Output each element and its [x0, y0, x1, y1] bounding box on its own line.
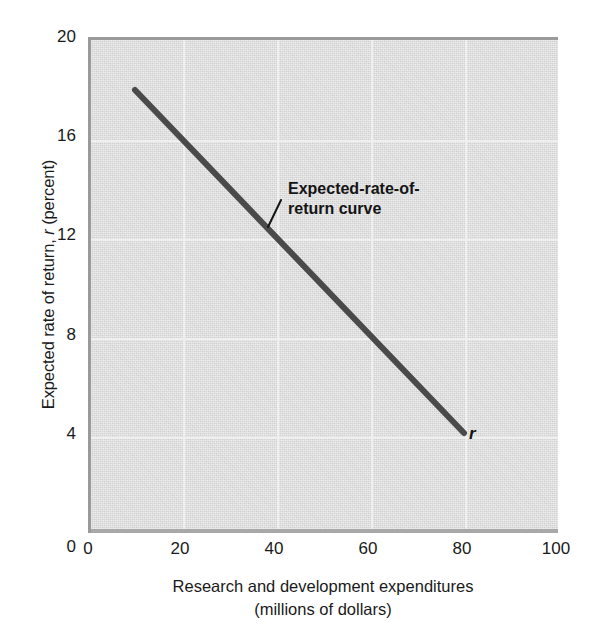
y-axis-title: Expected rate of return, r (percent): [39, 45, 58, 525]
gridline-y-8: [91, 338, 558, 340]
gridline-x-40: [277, 40, 279, 529]
y-axis-title-suffix: (percent): [39, 160, 57, 230]
y-tick-label-16: 16: [30, 126, 76, 146]
y-tick-label-20: 20: [30, 27, 76, 47]
x-tick-label-60: 60: [338, 539, 398, 559]
x-tick-label-100: 100: [526, 539, 586, 559]
gridline-x-20: [183, 40, 185, 529]
x-tick-label-20: 20: [150, 539, 210, 559]
x-axis-title-line-2: (millions of dollars): [88, 598, 558, 621]
x-tick-label-0: 0: [58, 539, 118, 559]
curve-annotation-line-2: return curve: [288, 199, 420, 219]
y-tick-label-4: 4: [30, 424, 76, 444]
x-axis-title: Research and development expenditures (m…: [88, 575, 558, 621]
gridline-y-12: [91, 239, 558, 241]
y-tick-label-12: 12: [30, 225, 76, 245]
gridline-x-60: [371, 40, 373, 529]
x-axis-rule: [91, 529, 558, 533]
y-tick-label-8: 8: [30, 325, 76, 345]
expected-rate-of-return-chart: Expected rate of return, r (percent) 20 …: [0, 0, 604, 627]
x-tick-label-80: 80: [432, 539, 492, 559]
x-tick-label-40: 40: [244, 539, 304, 559]
gridline-x-80: [465, 40, 467, 529]
curve-annotation-label: Expected-rate-of- return curve: [288, 179, 420, 220]
plot-texture: [91, 40, 558, 533]
curve-annotation-line-1: Expected-rate-of-: [288, 179, 420, 199]
gridline-y-4: [91, 437, 558, 439]
x-axis-title-line-1: Research and development expenditures: [88, 575, 558, 598]
gridline-y-16: [91, 140, 558, 142]
y-axis-title-prefix: Expected rate of return,: [39, 235, 57, 410]
plot-area: [88, 37, 558, 533]
curve-endpoint-label: r: [469, 424, 476, 444]
